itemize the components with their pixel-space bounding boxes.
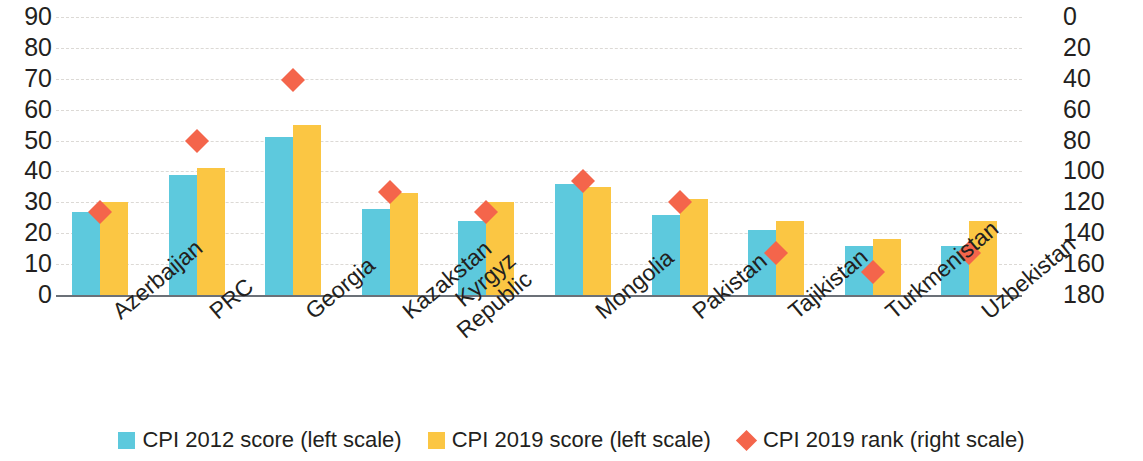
left-axis-tick: 90	[24, 4, 52, 29]
left-axis-tick: 30	[24, 189, 52, 214]
bar-cpi-2012	[265, 137, 293, 295]
cpi-chart: 0102030405060708090 02040608010012014016…	[0, 0, 1143, 461]
right-axis-tick: 60	[1063, 97, 1091, 122]
legend-label: CPI 2019 rank (right scale)	[763, 428, 1025, 452]
marker-cpi-2019-rank	[281, 68, 305, 92]
marker-cpi-2019-rank	[185, 129, 209, 153]
bar-cpi-2012	[555, 184, 583, 295]
bar-cpi-2019	[680, 199, 708, 295]
bar-group	[72, 17, 128, 295]
legend-item: CPI 2019 score (left scale)	[428, 428, 711, 452]
bar-cpi-2019	[583, 187, 611, 295]
right-axis-tick: 0	[1063, 4, 1077, 29]
left-axis-tick: 10	[24, 251, 52, 276]
right-axis-tick: 40	[1063, 66, 1091, 91]
left-axis-tick: 70	[24, 66, 52, 91]
left-axis-tick: 60	[24, 97, 52, 122]
legend-swatch-icon	[118, 432, 135, 449]
left-axis-tick: 40	[24, 158, 52, 183]
chart-legend: CPI 2012 score (left scale)CPI 2019 scor…	[0, 428, 1143, 452]
legend-diamond-icon	[736, 429, 757, 450]
right-axis-tick: 80	[1063, 128, 1091, 153]
legend-label: CPI 2012 score (left scale)	[142, 428, 401, 452]
legend-swatch-icon	[428, 432, 445, 449]
axis-baseline	[56, 295, 1022, 297]
bar-cpi-2019	[197, 168, 225, 295]
bar-cpi-2019	[293, 125, 321, 295]
bar-cpi-2019	[390, 193, 418, 295]
left-axis-tick: 50	[24, 128, 52, 153]
bar-group	[555, 17, 611, 295]
right-axis-tick: 120	[1063, 189, 1105, 214]
right-axis-tick: 180	[1063, 282, 1105, 307]
bar-cpi-2012	[72, 212, 100, 295]
legend-item: CPI 2019 rank (right scale)	[737, 428, 1025, 452]
left-axis-tick: 80	[24, 35, 52, 60]
legend-label: CPI 2019 score (left scale)	[452, 428, 711, 452]
right-axis-tick: 100	[1063, 158, 1105, 183]
legend-item: CPI 2012 score (left scale)	[118, 428, 401, 452]
bar-group	[362, 17, 418, 295]
left-axis-tick: 20	[24, 220, 52, 245]
left-axis-tick: 0	[38, 282, 52, 307]
bar-group	[265, 17, 321, 295]
right-axis-tick: 20	[1063, 35, 1091, 60]
